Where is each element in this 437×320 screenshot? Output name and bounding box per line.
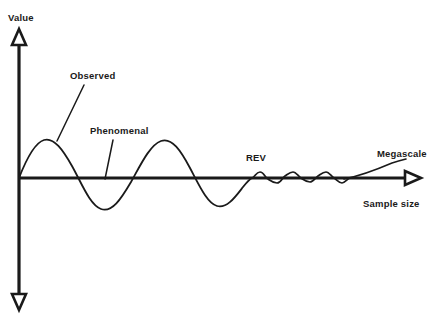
phenomenal-label: Phenomenal: [90, 125, 149, 136]
phenomenal-leader-line: [105, 140, 113, 179]
megascale-trend-curve: [344, 159, 406, 179]
observed-leader-line: [57, 85, 84, 141]
rev-diagram-svg: Value Observed Phenomenal REV Megascale …: [0, 0, 437, 320]
observed-damped-curve: [19, 140, 252, 210]
y-axis-label: Value: [8, 12, 34, 23]
figure-canvas: Value Observed Phenomenal REV Megascale …: [0, 0, 437, 320]
x-axis-label: Sample size: [363, 198, 420, 209]
y-axis-down-arrow-icon: [12, 294, 26, 310]
y-axis-up-arrow-icon: [12, 29, 26, 45]
rev-label: REV: [246, 152, 267, 163]
megascale-label: Megascale: [377, 148, 427, 159]
x-axis-right-arrow-icon: [405, 171, 421, 185]
observed-label: Observed: [70, 70, 115, 81]
